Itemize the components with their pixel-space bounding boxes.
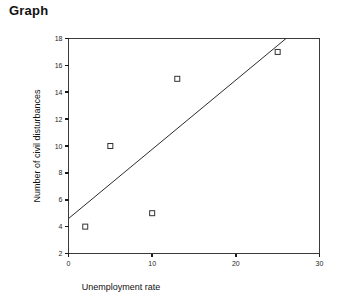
data-point-marker: [175, 76, 180, 81]
x-axis-title: Unemployment rate: [82, 282, 161, 292]
regression-line: [69, 39, 287, 219]
data-point-marker: [150, 211, 155, 216]
y-axis-ticks: 24681012141618: [55, 35, 69, 257]
y-tick-label: 2: [59, 250, 63, 257]
y-axis-title: Number of civil disturbances: [32, 89, 42, 203]
x-tick-label: 30: [316, 260, 324, 267]
x-axis-ticks: 0102030: [67, 254, 324, 267]
scatter-plot: 24681012141618 0102030 Unemployment rate…: [0, 0, 344, 306]
y-tick-label: 4: [59, 223, 63, 230]
y-tick-label: 6: [59, 196, 63, 203]
y-tick-label: 12: [55, 116, 63, 123]
data-point-marker: [275, 49, 280, 54]
axis-titles: Unemployment rateNumber of civil disturb…: [32, 89, 160, 292]
plot-frame: [69, 39, 320, 254]
x-tick-label: 0: [67, 260, 71, 267]
data-points: [83, 49, 280, 229]
y-tick-label: 8: [59, 169, 63, 176]
y-tick-label: 14: [55, 89, 63, 96]
trendline: [69, 39, 287, 219]
x-tick-label: 10: [148, 260, 156, 267]
data-point-marker: [108, 144, 113, 149]
y-tick-label: 18: [55, 35, 63, 42]
x-tick-label: 20: [232, 260, 240, 267]
data-point-marker: [83, 224, 88, 229]
y-tick-label: 10: [55, 143, 63, 150]
y-tick-label: 16: [55, 62, 63, 69]
chart-container: Graph 24681012141618 0102030 Unemploymen…: [0, 0, 344, 306]
